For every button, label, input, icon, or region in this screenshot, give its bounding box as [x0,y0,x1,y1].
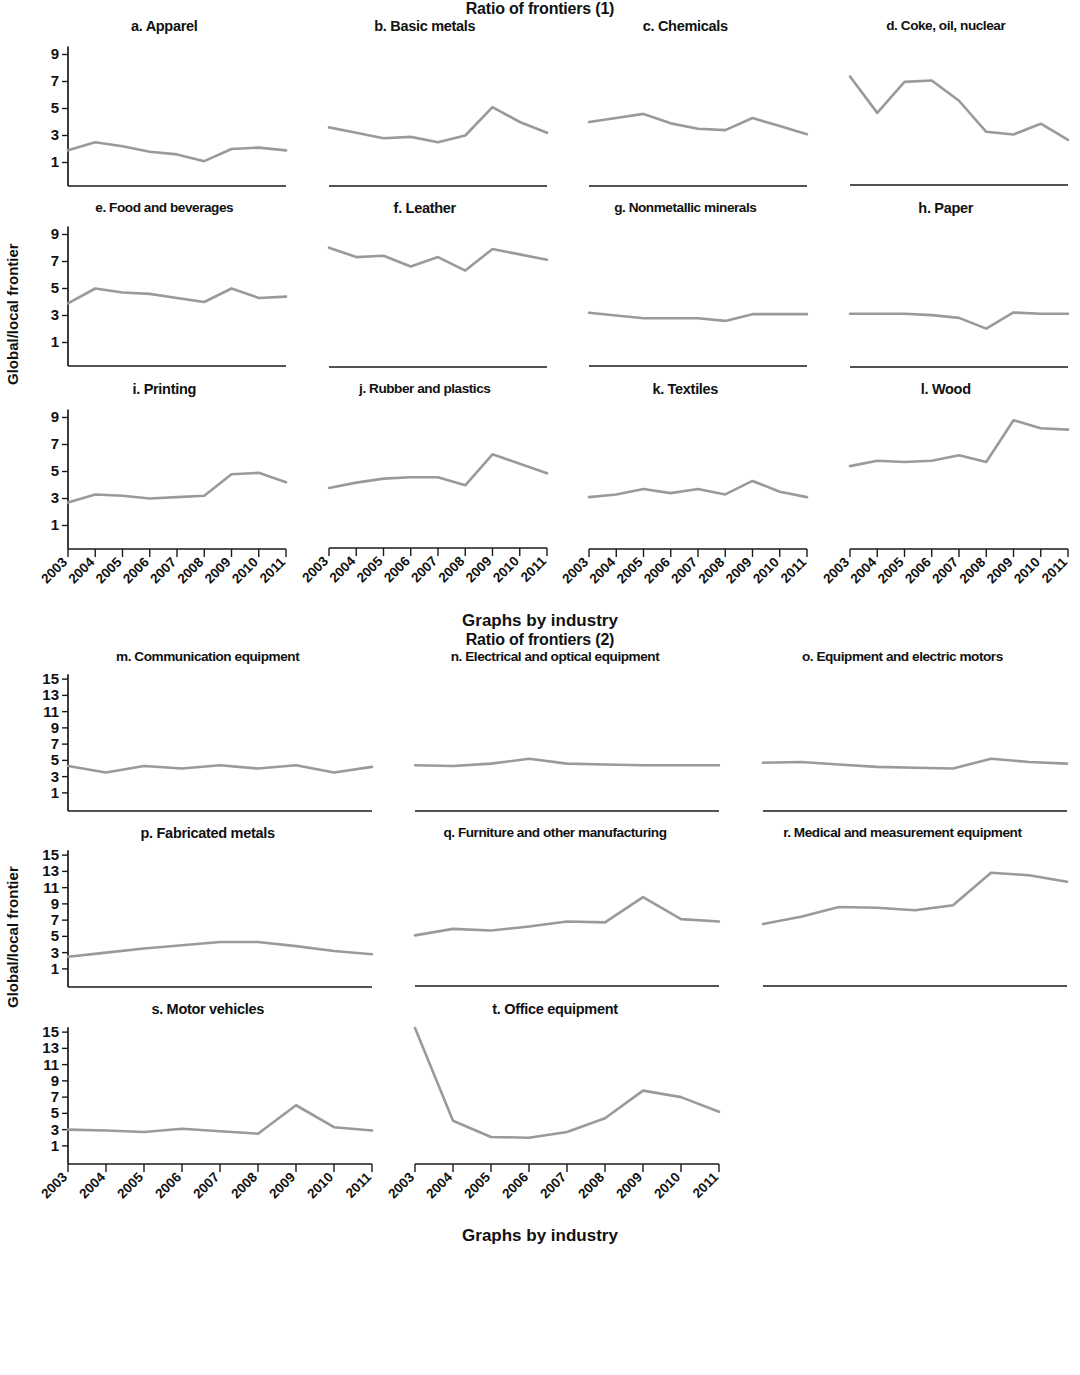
y-tick-label: 9 [51,895,59,912]
x-tick-label: 2006 [641,554,673,586]
plot-area: 200320042005200620072008200920102011 [816,398,1077,611]
x-tick-label: 2004 [66,554,98,586]
plot-area: 200320042005200620072008200920102011 [381,1018,728,1226]
x-tick-label: 2004 [847,554,879,586]
figure1-panel-grid: a. Apparel13579b. Basic metalsc. Chemica… [34,18,1076,611]
x-tick-label: 2010 [652,1169,684,1201]
chart-panel: k. Textiles20032004200520062007200820092… [555,381,816,611]
y-tick-label: 7 [51,72,59,89]
figure1-title: Ratio of frontiers (1) [0,0,1080,18]
x-tick-label: 2004 [76,1169,108,1201]
panel-svg: 200320042005200620072008200920102011 [816,398,1074,611]
panel-svg [295,35,553,200]
panel-svg: 200320042005200620072008200920102011 [295,397,553,610]
x-tick-label: 2011 [690,1169,722,1201]
panel-title: k. Textiles [555,381,816,398]
chart-panel: a. Apparel13579 [34,18,295,200]
panel-title: r. Medical and measurement equipment [729,825,1076,841]
plot-area [555,215,816,380]
chart-panel: p. Fabricated metals13579111315 [34,825,381,1002]
panel-svg [816,216,1074,381]
x-tick-label: 2010 [490,553,522,585]
x-tick-label: 2010 [1011,555,1043,587]
x-tick-label: 2008 [435,553,467,585]
y-tick-label: 11 [43,702,59,719]
x-tick-label: 2005 [114,1169,146,1201]
data-line [415,758,719,765]
y-tick-label: 1 [51,783,59,800]
panel-svg: 13579111315 [34,665,378,825]
panel-svg: 13579111315 [34,841,378,1001]
chart-panel: r. Medical and measurement equipment [729,825,1076,1002]
y-tick-label: 7 [51,911,59,928]
y-tick-label: 1 [51,516,59,533]
y-tick-label: 7 [51,253,59,270]
panel-svg: 13579 [34,35,292,200]
panel-svg [555,215,813,380]
chart-panel: i. Printing13579200320042005200620072008… [34,381,295,611]
x-tick-label: 2009 [983,555,1015,587]
panel-title: f. Leather [295,200,556,217]
y-tick-label: 13 [42,863,59,880]
x-tick-label: 2004 [326,553,358,585]
x-tick-label: 2006 [152,1169,184,1201]
x-tick-label: 2011 [778,554,810,586]
y-tick-label: 3 [51,307,59,324]
panel-title: b. Basic metals [295,18,556,35]
x-tick-label: 2005 [874,554,906,586]
y-tick-label: 5 [51,751,59,768]
x-tick-label: 2011 [517,553,549,585]
y-tick-label: 9 [51,408,59,425]
x-tick-label: 2004 [424,1169,456,1201]
plot-area [381,840,728,1000]
chart-panel: t. Office equipment200320042005200620072… [381,1001,728,1226]
data-line [589,114,807,134]
x-tick-label: 2008 [956,554,988,586]
panel-svg: 13579 [34,215,292,380]
y-tick-label: 7 [51,735,59,752]
x-tick-label: 2006 [381,553,413,585]
figure2-y-axis-label: Global/local frontier [4,649,21,1226]
plot-area: 1357911131520032004200520062007200820092… [34,1018,381,1226]
x-tick-label: 2005 [462,1169,494,1201]
data-line [850,420,1068,466]
x-tick-label: 2006 [500,1169,532,1201]
data-line [763,758,1067,768]
x-tick-label: 2006 [120,554,152,586]
chart-panel: f. Leather [295,200,556,382]
figure2-panel-grid: m. Communication equipment13579111315n. … [34,649,1076,1226]
panel-title: a. Apparel [34,18,295,35]
x-tick-label: 2003 [299,553,331,585]
plot-area [381,665,728,825]
y-tick-label: 7 [51,435,59,452]
panel-title: o. Equipment and electric motors [729,649,1076,665]
figure1-footer: Graphs by industry [0,611,1080,631]
x-tick-label: 2003 [38,554,70,586]
x-tick-label: 2005 [93,554,125,586]
panel-title: m. Communication equipment [34,649,381,665]
panel-title: l. Wood [816,381,1077,398]
x-tick-label: 2010 [304,1169,336,1201]
x-tick-label: 2007 [190,1169,222,1201]
x-tick-label: 2009 [723,555,755,587]
x-tick-label: 2008 [696,554,728,586]
figure1-y-axis-label: Global/local frontier [4,18,21,611]
data-line [329,248,547,271]
y-tick-label: 13 [42,1039,59,1056]
y-tick-label: 11 [43,879,59,896]
y-tick-label: 1 [51,153,59,170]
plot-area [816,216,1077,381]
y-tick-label: 15 [42,1023,59,1040]
data-line [329,107,547,142]
data-line [68,473,286,503]
y-tick-label: 9 [51,718,59,735]
data-line [589,313,807,321]
x-tick-label: 2006 [902,554,934,586]
data-line [589,481,807,497]
panel-svg [729,665,1073,825]
plot-area: 13579 [34,215,295,380]
y-tick-label: 9 [51,226,59,243]
y-tick-label: 15 [42,670,59,687]
plot-area: 13579111315 [34,665,381,825]
chart-panel: o. Equipment and electric motors [729,649,1076,825]
